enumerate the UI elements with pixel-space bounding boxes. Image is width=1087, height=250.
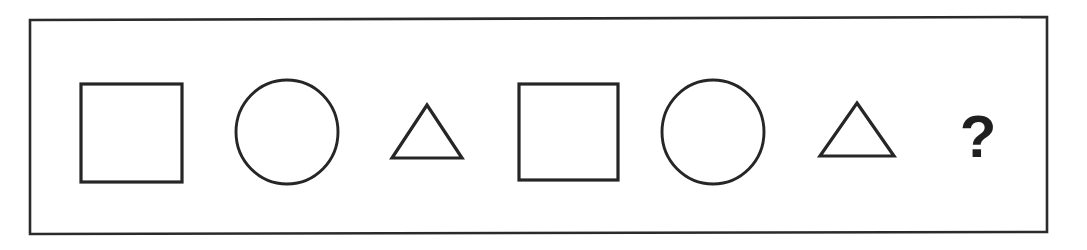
puzzle-canvas: ? bbox=[0, 0, 1087, 250]
square-shape[interactable] bbox=[81, 84, 182, 182]
circle-shape[interactable] bbox=[662, 80, 764, 184]
sequence-item-5[interactable] bbox=[662, 80, 764, 184]
sequence-item-6[interactable] bbox=[820, 103, 894, 156]
sequence-item-2[interactable] bbox=[236, 80, 338, 184]
question-mark-icon[interactable]: ? bbox=[960, 103, 997, 170]
sequence-item-4[interactable] bbox=[519, 84, 618, 180]
square-shape[interactable] bbox=[519, 84, 618, 180]
triangle-shape[interactable] bbox=[820, 103, 894, 156]
sequence-item-7-answer-slot[interactable]: ? bbox=[960, 103, 997, 170]
sequence-item-1[interactable] bbox=[81, 84, 182, 182]
circle-shape[interactable] bbox=[236, 80, 338, 184]
triangle-shape[interactable] bbox=[392, 105, 462, 158]
sequence-item-3[interactable] bbox=[392, 105, 462, 158]
